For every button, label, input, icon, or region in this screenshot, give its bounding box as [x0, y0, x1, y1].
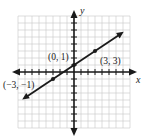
point-label-3-3: (3, 3) [100, 56, 121, 67]
y-axis-top-arrow-icon [71, 10, 78, 18]
x-axis-left-arrow-icon [12, 69, 20, 76]
y-axis-bottom-arrow-icon [71, 128, 78, 136]
point-label-neg3-neg1: (−3, −1) [3, 80, 34, 91]
x-axis-label: x [135, 74, 141, 85]
y-axis [71, 10, 78, 136]
point-label-0-1: (0, 1) [48, 52, 69, 63]
coordinate-plane: x y (0, 1) (3, 3) (−3, −1) [0, 0, 142, 140]
y-axis-label: y [79, 5, 85, 16]
data-point [93, 49, 97, 53]
data-point [51, 77, 55, 81]
data-point [72, 63, 76, 67]
